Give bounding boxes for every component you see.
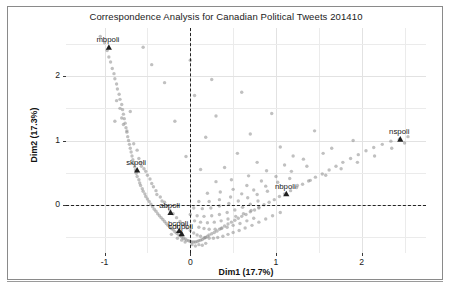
point-label: skpoli [126, 158, 146, 167]
y-tick-label: 2 [38, 70, 60, 80]
x-tick-label: 2 [350, 257, 374, 267]
chart-title: Correspondence Analysis for Canadian Pol… [0, 11, 452, 22]
x-tick-label: 1 [264, 257, 288, 267]
point-labels-layer: mbpoliskpoliabpolibcpolicdnpolinbpolinsp… [66, 28, 426, 253]
labeled-point-marker [106, 44, 112, 50]
point-label: mbpoli [96, 35, 119, 44]
window-baseline [7, 281, 443, 282]
labeled-point-marker [134, 167, 140, 173]
y-tick-label: 0 [38, 199, 60, 209]
x-tick-mark [105, 253, 106, 256]
x-axis-label: Dim1 (17.7%) [66, 267, 426, 277]
point-label: nbpoli [275, 182, 296, 191]
y-tick-mark [63, 205, 66, 206]
y-tick-mark [63, 141, 66, 142]
x-tick-label: 0 [178, 257, 202, 267]
x-tick-mark [276, 253, 277, 256]
reference-line-vertical [190, 28, 191, 253]
labeled-point-marker [283, 191, 289, 197]
labeled-point-marker [167, 209, 173, 215]
y-tick-mark [63, 76, 66, 77]
x-tick-label: -1 [93, 257, 117, 267]
plot-panel: mbpoliskpoliabpolibcpolicdnpolinbpolinsp… [66, 28, 426, 253]
y-tick-label: 1 [38, 135, 60, 145]
labeled-point-marker [397, 136, 403, 142]
figure-root: Correspondence Analysis for Canadian Pol… [0, 0, 452, 293]
point-label: nspoli [389, 127, 410, 136]
reference-line-horizontal [66, 205, 426, 206]
y-axis-label: Dim2 (17.3%) [29, 75, 39, 195]
x-tick-mark [190, 253, 191, 256]
x-tick-mark [362, 253, 363, 256]
